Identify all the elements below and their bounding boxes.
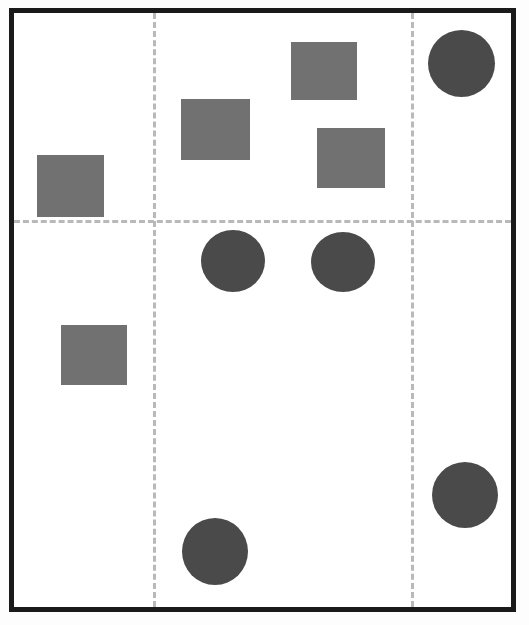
circle-2	[201, 230, 265, 292]
gridline-vertical-1	[153, 13, 156, 607]
gridline-horizontal-1	[14, 220, 511, 223]
figure-canvas	[0, 0, 529, 625]
circle-5	[432, 462, 498, 528]
square-2	[181, 99, 250, 160]
plot-area	[14, 13, 511, 607]
circle-4	[182, 518, 248, 585]
circle-1	[428, 30, 495, 97]
gridline-vertical-2	[411, 13, 414, 607]
square-5	[61, 325, 127, 385]
square-1	[37, 155, 104, 217]
square-3	[291, 42, 357, 100]
square-4	[317, 128, 385, 188]
circle-3	[311, 232, 375, 292]
